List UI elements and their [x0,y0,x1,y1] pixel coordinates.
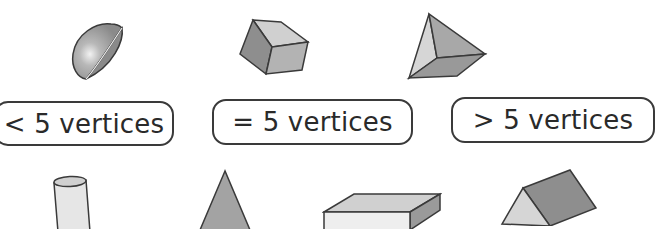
hemisphere-shape[interactable] [66,16,128,84]
cylinder-shape[interactable] [50,172,100,229]
rectangular-prism-shape[interactable] [322,190,442,229]
category-label: > 5 vertices [473,107,634,133]
triangular-prism-shape[interactable] [500,168,600,226]
category-greater-than-5-vertices[interactable]: > 5 vertices [451,97,655,143]
category-equal-5-vertices[interactable]: = 5 vertices [212,99,413,145]
category-label: < 5 vertices [4,111,165,137]
category-label: = 5 vertices [232,109,393,135]
triangular-pyramid-shape[interactable] [405,10,489,80]
category-less-than-5-vertices[interactable]: < 5 vertices [0,101,174,146]
cone-shape[interactable] [196,168,254,229]
cube-shape[interactable] [236,16,316,78]
